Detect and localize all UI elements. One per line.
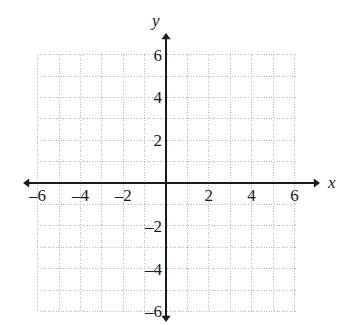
y-tick-label: –2 — [136, 218, 162, 235]
axis-lines — [29, 39, 314, 316]
axis-arrowheads — [23, 33, 320, 322]
coordinate-plane: –6–4–2246 642–2–4–6 x y — [0, 0, 343, 325]
y-tick-label: –6 — [136, 303, 162, 320]
x-tick-label: –2 — [113, 187, 133, 204]
grid-and-axes — [0, 0, 343, 325]
y-tick-label: 4 — [136, 89, 162, 106]
x-tick-label: –6 — [28, 187, 48, 204]
x-axis-label: x — [328, 174, 336, 191]
x-tick-label: 2 — [199, 187, 219, 204]
y-tick-label: 2 — [136, 132, 162, 149]
x-tick-label: –4 — [70, 187, 90, 204]
x-tick-label: 4 — [242, 187, 262, 204]
x-tick-label: 6 — [284, 187, 304, 204]
y-tick-label: 6 — [136, 47, 162, 64]
y-tick-label: –4 — [136, 261, 162, 278]
y-axis-label: y — [152, 12, 160, 29]
